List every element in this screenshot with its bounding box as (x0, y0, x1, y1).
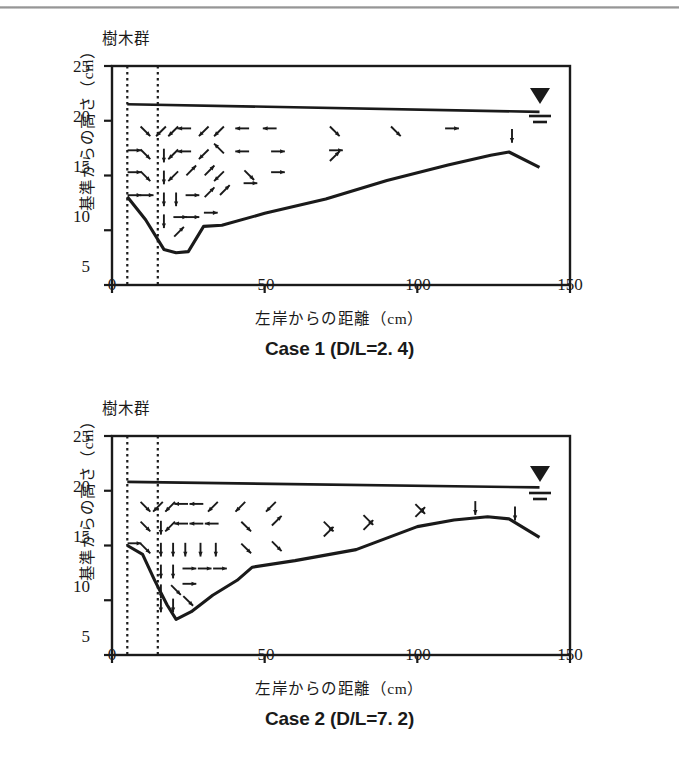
velocity-arrow-icon (128, 541, 142, 545)
velocity-arrow-icon (330, 151, 340, 161)
velocity-arrow-icon (271, 170, 285, 174)
velocity-arrow-icon (330, 127, 340, 137)
velocity-arrow-icon (235, 149, 249, 153)
velocity-arrow-icon (263, 126, 277, 130)
water-surface-marker-case-1 (529, 88, 551, 122)
velocity-arrow-icon (174, 227, 184, 237)
velocity-arrow-icon (141, 150, 151, 160)
velocity-arrow-icon (236, 502, 246, 512)
velocity-arrow-icon (141, 522, 151, 532)
velocity-arrow-icon (510, 129, 514, 143)
x-axis-label-case-1: 左岸からの距離（cm） (0, 306, 679, 328)
velocity-arrow-icon (272, 516, 282, 526)
velocity-arrow-icon (165, 502, 175, 512)
velocity-arrow-icon (177, 149, 191, 153)
velocity-arrow-icon (162, 171, 166, 185)
velocity-arrow-icon (174, 522, 188, 526)
velocity-arrow-icon (159, 599, 163, 613)
velocity-arrow-icon (171, 543, 175, 557)
axis-frame-case-1 (104, 66, 570, 293)
water-surface-line-case-2 (127, 482, 539, 488)
velocity-arrow-icon (159, 543, 163, 557)
velocity-arrow-icon (171, 565, 175, 579)
bed-profile-case-1 (127, 152, 539, 253)
velocity-arrow-icon (177, 126, 191, 130)
velocity-arrow-icon (214, 543, 218, 557)
plot-area-case-2: 樹木群 基準からの高さ（cm） 25 20 15 10 5 0 50 100 1… (0, 390, 679, 690)
velocity-arrow-icon (214, 127, 224, 137)
velocity-arrow-icon (174, 193, 178, 207)
velocity-arrow-icon (183, 543, 187, 557)
velocity-arrow-icon (324, 527, 334, 537)
velocity-arrow-icon (266, 502, 276, 512)
velocity-arrow-icon (364, 520, 374, 530)
velocity-arrow-icon (199, 127, 209, 137)
velocity-arrow-icon (244, 170, 254, 180)
velocity-arrow-icon (173, 215, 187, 219)
velocity-arrow-icon (205, 187, 215, 197)
velocity-arrow-icon (445, 126, 459, 130)
velocity-arrow-icon (162, 214, 166, 228)
velocity-arrow-icon (183, 582, 197, 586)
velocity-arrow-icon (208, 502, 218, 512)
velocity-arrow-icon (159, 521, 163, 535)
velocity-arrow-icon (162, 193, 166, 207)
velocity-arrow-icon (329, 148, 343, 152)
velocity-arrow-icon (241, 544, 251, 554)
velocity-arrow-icon (183, 566, 197, 570)
velocity-arrow-icon (199, 150, 209, 160)
velocity-arrow-icon (183, 596, 193, 606)
velocity-arrow-icon (204, 211, 218, 215)
velocity-arrow-icon (174, 502, 188, 506)
velocity-arrow-icon (235, 126, 249, 130)
velocity-arrow-icon (271, 149, 285, 153)
velocity-arrow-icon (128, 170, 142, 174)
figure-case-2: 樹木群 基準からの高さ（cm） 25 20 15 10 5 0 50 100 1… (0, 390, 679, 768)
velocity-arrow-icon (128, 148, 142, 152)
velocity-arrow-icon (198, 566, 212, 570)
velocity-arrow-icon (198, 543, 202, 557)
velocity-vectors-case-1 (128, 126, 514, 236)
caption-case-2: Case 2 (D/L=7. 2) (0, 708, 679, 730)
scan-edge-rule (0, 6, 679, 9)
velocity-arrow-icon (473, 501, 477, 515)
x-axis-label-case-2: 左岸からの距離（cm） (0, 676, 679, 698)
velocity-arrow-icon (205, 166, 215, 176)
plot-svg-case-1 (0, 20, 679, 320)
velocity-arrow-icon (205, 522, 219, 526)
velocity-arrow-icon (162, 149, 166, 163)
velocity-arrow-icon (391, 127, 401, 137)
velocity-arrow-icon (190, 522, 204, 526)
velocity-arrow-icon (214, 144, 224, 154)
water-surface-line-case-1 (127, 104, 539, 112)
velocity-arrow-icon (186, 215, 200, 219)
velocity-arrow-icon (165, 522, 175, 532)
plot-area-case-1: 樹木群 基準からの高さ（cm） 25 20 15 10 5 0 50 100 1… (0, 20, 679, 320)
velocity-arrow-icon (171, 585, 181, 595)
velocity-arrow-icon (168, 171, 178, 181)
velocity-arrow-icon (272, 541, 282, 551)
velocity-arrow-icon (186, 193, 200, 197)
vegetation-band-case-1 (127, 66, 158, 285)
plot-svg-case-2 (0, 390, 679, 690)
velocity-arrow-icon (141, 544, 151, 554)
velocity-arrow-icon (186, 166, 196, 176)
velocity-arrow-icon (168, 127, 178, 137)
velocity-arrow-icon (159, 565, 163, 579)
figure-case-1: 樹木群 基準からの高さ（cm） 25 20 15 10 5 0 50 100 1… (0, 20, 679, 395)
caption-case-1: Case 1 (D/L=2. 4) (0, 338, 679, 360)
velocity-arrow-icon (128, 193, 142, 197)
velocity-arrow-icon (220, 185, 230, 195)
velocity-arrow-icon (141, 127, 151, 137)
velocity-arrow-icon (141, 502, 151, 512)
velocity-arrow-icon (513, 507, 517, 521)
velocity-arrow-icon (244, 181, 258, 185)
velocity-arrow-icon (190, 502, 204, 506)
velocity-arrow-icon (140, 193, 154, 197)
velocity-arrow-icon (168, 150, 178, 160)
water-surface-marker-case-2 (529, 466, 551, 499)
velocity-arrow-icon (241, 522, 251, 532)
velocity-arrow-icon (141, 171, 151, 181)
velocity-arrow-icon (213, 566, 227, 570)
velocity-arrow-icon (214, 171, 224, 181)
